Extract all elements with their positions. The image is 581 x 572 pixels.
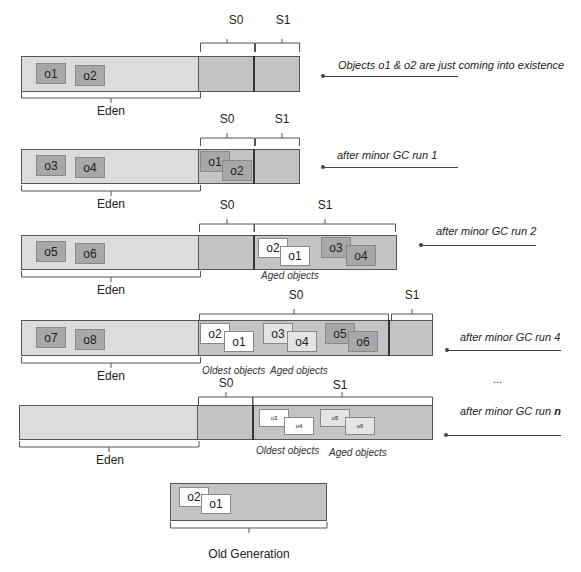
- s0-brace: [199, 218, 255, 234]
- eden-region: [19, 405, 199, 440]
- eden-brace: [21, 92, 201, 104]
- s0-aged-caption: Aged objects: [270, 365, 328, 376]
- object-o1: o1: [224, 331, 254, 352]
- row-4-note: after minor GC run 4: [460, 331, 560, 343]
- object-o4: o4: [75, 157, 105, 178]
- object-o4: o4: [284, 417, 314, 435]
- object-o6: o6: [348, 331, 378, 352]
- s1-brace: [255, 38, 300, 54]
- s0-label: S0: [211, 376, 241, 390]
- s1-aged-caption: Aged objects: [261, 270, 319, 281]
- eden-label: Eden: [81, 283, 141, 297]
- object-o3: o3: [36, 155, 66, 176]
- row-5-arrow: [446, 435, 561, 436]
- row-5-note-n: n: [554, 405, 561, 417]
- s0-s1-divider: [252, 405, 254, 440]
- row-5-note-prefix: after minor GC run: [460, 405, 554, 417]
- s0-s1-divider: [253, 235, 255, 270]
- s1-oldest-caption: Oldest objects: [256, 445, 319, 456]
- object-o5: o5: [36, 241, 66, 262]
- s0-label: S0: [221, 13, 251, 27]
- eden-label: Eden: [80, 453, 140, 467]
- s1-label: S1: [397, 288, 427, 302]
- s1-region: [253, 56, 300, 92]
- row-5-note: after minor GC run n: [460, 405, 561, 417]
- s1-label: S1: [268, 13, 298, 27]
- row-3-arrow: [421, 245, 536, 246]
- s0-brace: [200, 132, 255, 148]
- object-o6: o6: [345, 417, 375, 435]
- s1-aged-caption: Aged objects: [329, 447, 387, 458]
- s0-s1-divider: [388, 320, 390, 356]
- s0-label: S0: [212, 198, 242, 212]
- object-o6: o6: [75, 243, 105, 264]
- s1-label: S1: [267, 112, 297, 126]
- eden-brace: [21, 185, 201, 197]
- s0-oldest-caption: Oldest objects: [202, 365, 265, 376]
- row-4-arrow: [447, 350, 561, 351]
- old-generation-brace: [170, 522, 328, 534]
- object-o1: o1: [280, 246, 310, 266]
- object-o7: o7: [36, 327, 66, 348]
- s0-s1-divider: [253, 56, 255, 92]
- row-2-arrow: [323, 167, 458, 168]
- object-o2: o2: [222, 160, 252, 181]
- s1-region: [388, 320, 433, 356]
- s1-brace: [255, 132, 300, 148]
- row-1-note: Objects o1 & o2 are just coming into exi…: [338, 59, 564, 71]
- eden-brace: [19, 441, 200, 453]
- s0-brace: [200, 38, 255, 54]
- row-1-arrow: [323, 76, 458, 77]
- s1-brace: [254, 218, 396, 234]
- object-o1: o1: [201, 494, 231, 514]
- s1-region: [253, 149, 300, 184]
- old-generation-label: Old Generation: [199, 547, 299, 561]
- eden-label: Eden: [81, 104, 141, 118]
- eden-brace: [21, 271, 201, 283]
- s1-label: S1: [310, 198, 340, 212]
- object-o4: o4: [346, 245, 376, 266]
- eden-label: Eden: [81, 369, 141, 383]
- ellipsis: ...: [493, 373, 502, 385]
- row-2-note: after minor GC run 1: [337, 149, 437, 161]
- eden-brace: [21, 357, 201, 369]
- object-o8: o8: [75, 329, 105, 350]
- s0-region: [198, 56, 255, 92]
- s1-label: S1: [325, 378, 355, 392]
- object-o2: o2: [75, 65, 105, 86]
- object-o1: o1: [36, 63, 66, 84]
- s0-label: S0: [212, 112, 242, 126]
- s0-label: S0: [281, 288, 311, 302]
- eden-label: Eden: [81, 197, 141, 211]
- row-3-note: after minor GC run 2: [436, 225, 536, 237]
- s0-region: [198, 235, 255, 270]
- s0-region: [197, 405, 254, 440]
- s0-s1-divider: [253, 149, 255, 184]
- object-o4: o4: [287, 331, 317, 352]
